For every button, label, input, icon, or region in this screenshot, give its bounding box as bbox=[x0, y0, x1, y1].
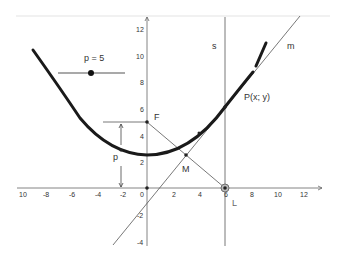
svg-text:6: 6 bbox=[140, 106, 144, 113]
svg-text:4: 4 bbox=[198, 191, 202, 198]
svg-text:8: 8 bbox=[140, 79, 144, 86]
point-m-label: M bbox=[182, 164, 190, 174]
svg-text:10: 10 bbox=[136, 53, 144, 60]
svg-text:12: 12 bbox=[300, 191, 308, 198]
svg-text:-8: -8 bbox=[43, 191, 49, 198]
line-m-label: m bbox=[287, 41, 295, 51]
point-on-curve-left bbox=[120, 149, 123, 152]
svg-text:-2: -2 bbox=[120, 191, 126, 198]
svg-text:2: 2 bbox=[172, 191, 176, 198]
svg-text:-4: -4 bbox=[95, 191, 101, 198]
svg-text:0: 0 bbox=[140, 191, 144, 198]
slider-p[interactable]: p = 5 bbox=[58, 53, 125, 76]
y-tick-labels: 12 10 8 6 4 2 -2 -4 bbox=[136, 26, 144, 246]
point-on-curve-right bbox=[198, 132, 201, 135]
origin-point bbox=[145, 186, 149, 190]
point-m[interactable] bbox=[184, 153, 188, 157]
point-l-label: L bbox=[232, 198, 237, 208]
parabola-dash bbox=[256, 43, 266, 66]
svg-text:10: 10 bbox=[274, 191, 282, 198]
svg-text:-4: -4 bbox=[137, 239, 143, 246]
distance-p-arrows bbox=[119, 124, 123, 187]
slider-handle[interactable] bbox=[88, 70, 94, 76]
y-axis bbox=[145, 17, 149, 246]
svg-text:12: 12 bbox=[136, 26, 144, 33]
svg-text:-2: -2 bbox=[137, 212, 143, 219]
svg-text:4: 4 bbox=[140, 133, 144, 140]
point-p[interactable] bbox=[223, 105, 227, 109]
point-f[interactable] bbox=[145, 120, 149, 124]
svg-text:2: 2 bbox=[140, 159, 144, 166]
point-p-label: P(x; y) bbox=[244, 92, 270, 102]
distance-p-label: p bbox=[113, 152, 118, 162]
geometry-canvas[interactable]: 10 -8 -6 -4 -2 0 2 4 6 8 10 12 12 10 8 6… bbox=[0, 0, 342, 256]
slider-label: p = 5 bbox=[84, 53, 104, 63]
line-s-label: s bbox=[212, 41, 217, 51]
x-tick-labels: 10 -8 -6 -4 -2 0 2 4 6 8 10 12 bbox=[19, 191, 308, 198]
svg-text:-6: -6 bbox=[69, 191, 75, 198]
point-l[interactable] bbox=[221, 184, 229, 192]
point-f-label: F bbox=[154, 112, 160, 122]
svg-text:10: 10 bbox=[19, 191, 27, 198]
x-axis bbox=[17, 186, 322, 190]
svg-text:8: 8 bbox=[250, 191, 254, 198]
